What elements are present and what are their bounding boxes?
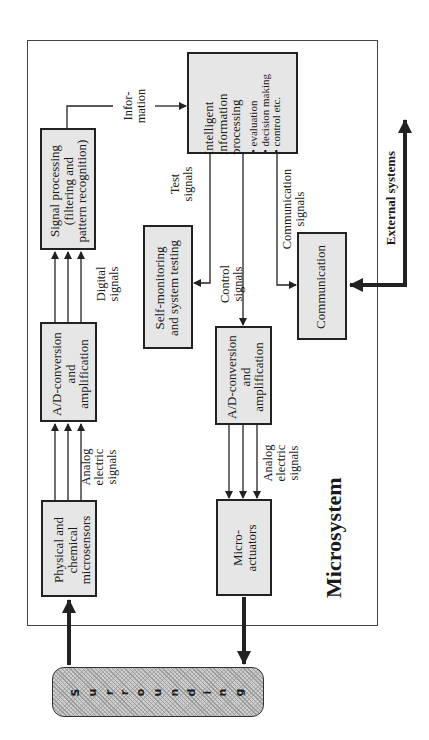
ad-in-label-2: and bbox=[64, 324, 78, 424]
intelligent-label-2: information bbox=[216, 57, 230, 155]
self-monitoring-label-1: Self-monitoring bbox=[153, 226, 167, 350]
analog-in-line-3: signals bbox=[106, 439, 119, 495]
surrounding-letter: o bbox=[134, 688, 147, 696]
control-line-2: signals bbox=[232, 259, 245, 309]
sensors-label-1: Physical and bbox=[52, 502, 66, 599]
self-monitoring-box: Self-monitoring and system testing bbox=[143, 225, 193, 349]
test-line-2: signals bbox=[182, 162, 195, 206]
ad-in-label-1: A/D-conversion bbox=[50, 324, 64, 424]
signal-processing-box: Signal processing (filtering and pattern… bbox=[40, 128, 96, 250]
signal-processing-label-1: Signal processing bbox=[48, 130, 62, 252]
actuators-box: Micro- actuators bbox=[216, 499, 272, 596]
surrounding-label: S u r r o u n d i n g bbox=[72, 680, 244, 704]
digital-signals-label: Digital signals bbox=[95, 259, 123, 309]
communication-label: Communication bbox=[314, 233, 328, 341]
test-signals-label: Test signals bbox=[169, 162, 197, 206]
surrounding-letter: r bbox=[103, 689, 116, 694]
surrounding-letter: u bbox=[151, 688, 164, 696]
surrounding-letter: u bbox=[87, 688, 100, 696]
self-monitoring-label-2: and system testing bbox=[167, 226, 181, 350]
microsystem-title-text: Microsystem bbox=[322, 488, 345, 598]
ad-conversion-output-box: A/D-conversion and amplification bbox=[215, 326, 272, 425]
communication-signals-line-2: signals bbox=[294, 167, 307, 251]
information-label: Infor- mation bbox=[122, 86, 150, 126]
actuators-label-1: Micro- bbox=[231, 502, 245, 595]
signal-processing-label-2: (filtering and bbox=[62, 130, 76, 252]
digital-line-2: signals bbox=[108, 259, 121, 309]
surrounding-letter: g bbox=[234, 688, 247, 696]
ad-out-label-3: amplification bbox=[252, 328, 266, 427]
surrounding-letter: i bbox=[201, 690, 214, 694]
external-systems-text: External systems bbox=[384, 146, 398, 250]
sensors-box: Physical and chemical microsensors bbox=[41, 500, 97, 597]
ad-conversion-input-box: A/D-conversion and amplification bbox=[40, 322, 97, 422]
sensors-label-2: chemical bbox=[65, 502, 79, 599]
surrounding-letter: n bbox=[216, 688, 229, 696]
signal-processing-label-3: pattern recognition) bbox=[75, 130, 89, 252]
intelligent-bullet-evaluation: • evaluation bbox=[248, 57, 260, 153]
intelligent-processing-box: Intelligent information processing • eva… bbox=[187, 52, 298, 154]
intelligent-label-3: processing bbox=[229, 57, 243, 155]
analog-signals-in-label: Analog electric signals bbox=[80, 439, 120, 495]
analog-out-line-3: signals bbox=[288, 436, 301, 490]
ad-out-label-2: and bbox=[238, 328, 252, 427]
actuators-label-2: actuators bbox=[244, 502, 258, 595]
intelligent-bullet-control: • control etc. bbox=[271, 57, 283, 153]
surrounding-letter: n bbox=[168, 688, 181, 696]
surrounding-letter: S bbox=[69, 688, 82, 696]
ad-out-label-1: A/D-conversion bbox=[225, 328, 239, 427]
microsystem-diagram: Physical and chemical microsensors A/D-c… bbox=[0, 0, 429, 740]
microsystem-title: Microsystem bbox=[322, 488, 348, 598]
control-signals-label: Control signals bbox=[219, 259, 247, 309]
communication-signals-label: Communication signals bbox=[281, 167, 309, 251]
ad-in-label-3: amplification bbox=[77, 324, 91, 424]
external-systems-label: External systems bbox=[384, 146, 400, 250]
intelligent-label-1: Intelligent bbox=[202, 57, 216, 155]
surrounding-letter: d bbox=[186, 688, 199, 696]
sensors-label-3: microsensors bbox=[79, 502, 93, 599]
surrounding-letter: r bbox=[118, 689, 131, 694]
information-line-2: mation bbox=[135, 86, 148, 126]
analog-signals-out-label: Analog electric signals bbox=[262, 436, 302, 490]
